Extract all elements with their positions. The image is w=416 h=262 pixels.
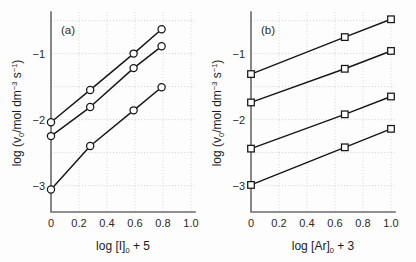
xtick-label-a-1: 0.2 <box>71 217 86 229</box>
series-line-b-bottom <box>251 129 391 185</box>
yaxis-title-a: log (v0/mol dm−3 s−1) <box>10 60 26 167</box>
data-point-b-top-2[interactable] <box>388 16 395 23</box>
xtick-label-a-2: 0.4 <box>99 217 114 229</box>
data-point-a-middle-2[interactable] <box>130 65 137 72</box>
data-point-b-third-0[interactable] <box>248 145 255 152</box>
two-panel-kinetics-chart: −1−2−300.20.40.60.81.0(a)log [I]0 + 5log… <box>0 0 416 262</box>
data-point-a-middle-3[interactable] <box>158 43 165 50</box>
xtick-label-b-3: 0.6 <box>327 217 342 229</box>
data-point-b-bottom-0[interactable] <box>248 182 255 189</box>
series-line-b-third <box>251 97 391 149</box>
ytick-label-b-0: −1 <box>232 48 245 60</box>
xtick-label-b-5: 1.0 <box>383 217 398 229</box>
xtick-label-b-1: 0.2 <box>271 217 286 229</box>
panel-label-b: (b) <box>261 24 275 36</box>
data-point-b-top-0[interactable] <box>248 71 255 78</box>
panel-b: −1−2−300.20.40.60.81.0(b)log [Ar]0 + 3lo… <box>210 12 399 255</box>
data-point-b-bottom-1[interactable] <box>342 144 349 151</box>
data-point-b-third-2[interactable] <box>388 93 395 100</box>
xtick-label-b-2: 0.4 <box>299 217 314 229</box>
xtick-label-b-0: 0 <box>248 217 254 229</box>
ytick-label-b-1: −2 <box>232 114 245 126</box>
series-line-a-upper <box>51 29 162 122</box>
panel-label-a: (a) <box>61 24 75 36</box>
series-line-b-second <box>251 51 391 102</box>
ytick-label-a-1: −2 <box>32 114 45 126</box>
data-point-b-second-2[interactable] <box>388 48 395 55</box>
series-line-a-lower <box>51 87 162 189</box>
ytick-label-a-2: −3 <box>32 180 45 192</box>
xaxis-title-b: log [Ar]0 + 3 <box>292 239 355 255</box>
data-point-a-middle-0[interactable] <box>47 133 54 140</box>
ytick-label-b-2: −3 <box>232 180 245 192</box>
panel-a: −1−2−300.20.40.60.81.0(a)log [I]0 + 5log… <box>10 12 199 255</box>
data-point-a-upper-1[interactable] <box>87 86 94 93</box>
data-point-a-upper-2[interactable] <box>130 50 137 57</box>
xtick-label-a-0: 0 <box>48 217 54 229</box>
data-point-a-lower-1[interactable] <box>87 142 94 149</box>
axis-lines-a <box>51 12 195 212</box>
data-point-b-third-1[interactable] <box>342 111 349 118</box>
data-point-a-lower-3[interactable] <box>158 84 165 91</box>
xaxis-title-a: log [I]0 + 5 <box>96 239 150 255</box>
data-point-b-second-1[interactable] <box>342 65 349 72</box>
series-line-a-middle <box>51 46 162 136</box>
data-point-a-upper-3[interactable] <box>158 26 165 33</box>
data-point-b-bottom-2[interactable] <box>388 126 395 133</box>
data-point-a-middle-1[interactable] <box>87 103 94 110</box>
data-point-b-second-0[interactable] <box>248 99 255 106</box>
axis-lines-b <box>251 12 395 212</box>
data-point-b-top-1[interactable] <box>342 34 349 41</box>
xtick-label-b-4: 0.8 <box>355 217 370 229</box>
xtick-label-a-3: 0.6 <box>127 217 142 229</box>
yaxis-title-b: log (v0/mol dm−3 s−1) <box>210 60 226 167</box>
xtick-label-a-5: 1.0 <box>183 217 198 229</box>
xtick-label-a-4: 0.8 <box>155 217 170 229</box>
data-point-a-lower-2[interactable] <box>130 107 137 114</box>
figure-container: −1−2−300.20.40.60.81.0(a)log [I]0 + 5log… <box>0 0 416 262</box>
data-point-a-lower-0[interactable] <box>47 186 54 193</box>
ytick-label-a-0: −1 <box>32 48 45 60</box>
data-point-a-upper-0[interactable] <box>47 119 54 126</box>
